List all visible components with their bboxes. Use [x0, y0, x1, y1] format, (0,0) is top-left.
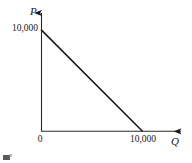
demand-curve-line	[42, 30, 143, 131]
y-axis-tick-label-10000: 10,000	[0, 23, 38, 33]
scan-speck-artifact-secondary	[9, 154, 12, 157]
x-axis-label-q: Q	[171, 136, 179, 147]
demand-curve-figure: P Q 10,000 0 10,000	[0, 0, 192, 163]
x-axis-tick-label-10000: 10,000	[119, 134, 167, 144]
origin-label: 0	[34, 134, 46, 144]
y-axis-label-p: P	[30, 6, 37, 17]
